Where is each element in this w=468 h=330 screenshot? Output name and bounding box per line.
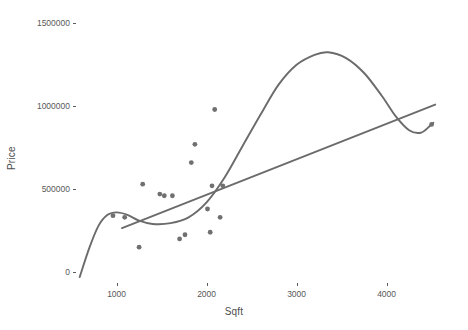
y-tick-label: 0 bbox=[65, 267, 70, 277]
x-tick-mark bbox=[387, 283, 388, 286]
loess-smooth-curve bbox=[80, 52, 434, 277]
plot-canvas bbox=[77, 10, 437, 282]
data-point bbox=[208, 230, 213, 235]
data-point bbox=[212, 107, 217, 112]
y-tick-mark bbox=[73, 23, 76, 24]
x-tick-mark bbox=[297, 283, 298, 286]
x-tick-label: 4000 bbox=[377, 289, 396, 299]
data-point bbox=[183, 232, 188, 237]
linear-fit-line bbox=[122, 105, 435, 229]
y-tick-label: 1500000 bbox=[37, 18, 70, 28]
data-point bbox=[220, 183, 225, 188]
y-tick-mark bbox=[73, 106, 76, 107]
data-point bbox=[193, 142, 198, 147]
data-point bbox=[210, 183, 215, 188]
data-point bbox=[157, 192, 162, 197]
data-point bbox=[170, 193, 175, 198]
x-tick-mark bbox=[207, 283, 208, 286]
x-tick-label: 2000 bbox=[197, 289, 216, 299]
data-points-group bbox=[111, 107, 434, 249]
data-point bbox=[137, 245, 142, 250]
x-tick-label: 1000 bbox=[107, 289, 126, 299]
data-point bbox=[140, 182, 145, 187]
y-tick-label: 500000 bbox=[42, 184, 70, 194]
y-tick-mark bbox=[73, 189, 76, 190]
y-tick-mark bbox=[73, 272, 76, 273]
data-point bbox=[122, 215, 127, 220]
data-point bbox=[429, 122, 434, 127]
x-axis-title: Sqft bbox=[0, 306, 468, 317]
data-point bbox=[111, 213, 116, 218]
data-point bbox=[205, 207, 210, 212]
x-tick-label: 3000 bbox=[287, 289, 306, 299]
scatter-plot-figure: Price Sqft 050000010000001500000 1000200… bbox=[0, 0, 468, 330]
x-tick-mark bbox=[117, 283, 118, 286]
y-tick-label: 1000000 bbox=[37, 101, 70, 111]
y-axis-title: Price bbox=[6, 146, 17, 170]
plot-panel bbox=[77, 10, 437, 282]
data-point bbox=[218, 215, 223, 220]
data-point bbox=[162, 193, 167, 198]
data-point bbox=[189, 160, 194, 165]
data-point bbox=[177, 236, 182, 241]
